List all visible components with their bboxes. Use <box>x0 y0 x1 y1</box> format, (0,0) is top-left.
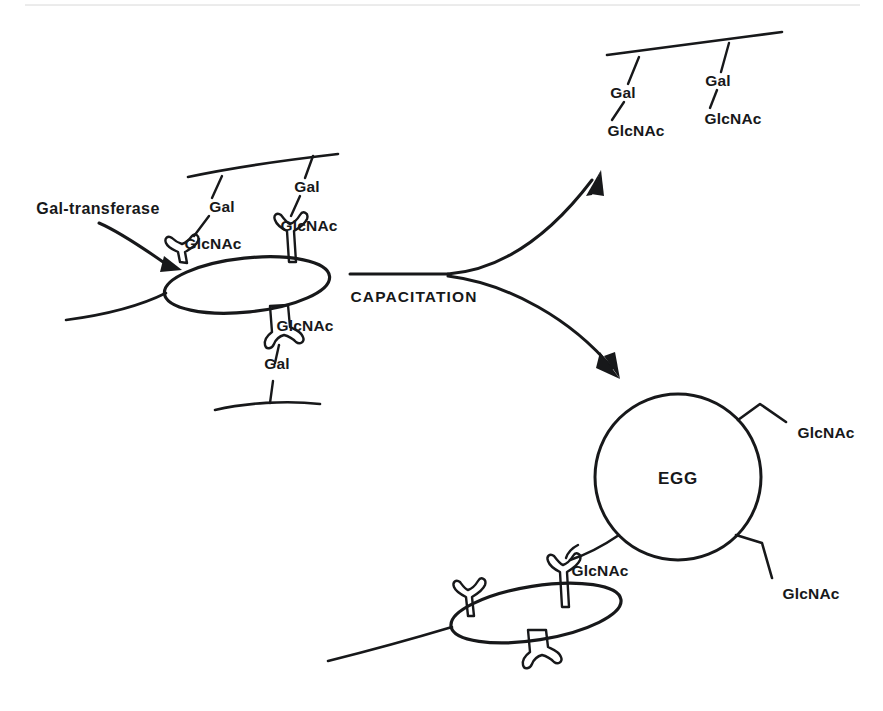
egg-ligand-arm-upper-right <box>738 404 786 422</box>
gal-membrane-link-lower-left <box>270 381 273 403</box>
label-gal-released-right: Gal <box>705 73 731 89</box>
label-capacitation: CAPACITATION <box>351 289 478 305</box>
label-glcnac-released-left: GlcNAc <box>607 123 664 139</box>
released-gal-glcnac-link-right <box>710 90 717 108</box>
sperm-tail-capacitated <box>328 627 452 661</box>
label-glcnac-uncap-lower: GlcNAc <box>276 318 333 334</box>
egg-ligand-arm-lower-left <box>570 535 619 560</box>
label-glcnac-egg-upper-right: GlcNAc <box>797 425 854 441</box>
gal-stalk-upper-right <box>305 156 313 178</box>
label-glcnac-uncap-upper-right: GlcNAc <box>280 218 337 234</box>
oviduct-membrane-upper-left <box>188 154 338 177</box>
oviduct-membrane-lower-left <box>215 402 320 410</box>
label-gal-released-left: Gal <box>610 85 636 101</box>
label-glcnac-released-right: GlcNAc <box>704 111 761 127</box>
released-gal-stalk-left <box>628 57 639 84</box>
capacitation-arrow-up-head-b <box>591 170 604 196</box>
sperm-tail-uncapacitated <box>66 293 166 320</box>
oviduct-membrane-released <box>607 32 782 55</box>
gal-glcnac-link-upper-right <box>291 196 300 216</box>
released-gal-glcnac-link-left <box>612 102 624 120</box>
label-glcnac-egg-bound: GlcNAc <box>571 563 628 579</box>
label-egg: EGG <box>658 470 698 487</box>
label-glcnac-uncap-upper-left: GlcNAc <box>184 236 241 252</box>
egg-ligand-arm-lower-right <box>736 535 772 578</box>
diagram-vector-layer <box>0 0 883 711</box>
label-gal-uncap-lower: Gal <box>264 356 290 372</box>
capacitation-arrow-up-line <box>448 180 592 274</box>
label-gal-transferase: Gal-transferase <box>36 201 159 217</box>
released-gal-stalk-right <box>721 43 729 72</box>
enzyme-pointer-line <box>99 223 166 264</box>
label-gal-uncap-upper-left: Gal <box>209 199 235 215</box>
label-glcnac-egg-lower-right: GlcNAc <box>782 586 839 602</box>
gal-stalk-upper-left <box>212 176 222 198</box>
gal-glcnac-link-upper-left <box>194 216 209 236</box>
label-gal-uncap-upper-right: Gal <box>294 179 320 195</box>
diagram-canvas: Gal-transferase Gal GlcNAc Gal GlcNAc Gl… <box>0 0 883 711</box>
receptor-capacitated-left <box>453 578 485 616</box>
